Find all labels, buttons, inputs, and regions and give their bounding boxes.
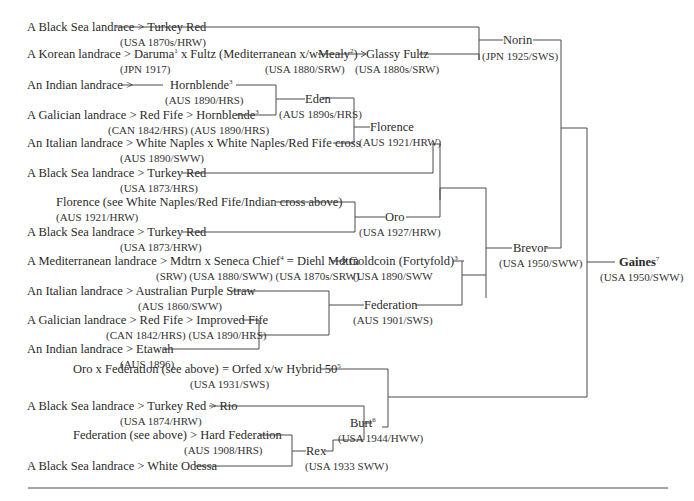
row-indian-landrace: An Indian landrace > [27, 78, 133, 92]
row-improved-fife-info: (CAN 1842/HRS) (USA 1890/HRS) [106, 329, 266, 342]
row-florence-ref: Florence (see White Naples/Red Fife/Indi… [56, 195, 342, 209]
row-white-naples: An Italian landrace > White Naples x Whi… [27, 136, 361, 150]
row-red-fife-hornblende: A Galician landrace > Red Fife > Hornble… [27, 108, 259, 122]
row-hard-federation-info: (AUS 1908/HRS) [184, 444, 263, 457]
row-hard-federation: Federation (see above) > Hard Federation [73, 428, 282, 442]
node-rex: Rex [306, 444, 326, 458]
row-daruma-info: (JPN 1917) [120, 63, 170, 76]
row-mediterranean: A Mediterranean landrace > Mdtrn x Senec… [27, 254, 359, 268]
row-florence-ref-info: (AUS 1921/HRW) [56, 211, 138, 224]
node-gaines-info: (USA 1950/SWW) [600, 271, 683, 284]
node-goldcoin: Goldcoin (Fortyfold)3 [349, 254, 458, 268]
node-oro: Oro [385, 210, 404, 224]
row-white-naples-info: (AUS 1890/SWW) [120, 152, 204, 165]
node-goldcoin-info: (USA 1890/SWW [353, 270, 433, 283]
node-oro-info: (USA 1927/HRW) [359, 226, 441, 239]
node-norin-info: (JPN 1925/SWS) [482, 50, 558, 63]
node-burt: Burt6 [350, 416, 376, 430]
node-norin: Norin [503, 33, 532, 47]
row-turkey-red-3: A Black Sea landrace > Turkey Red [27, 225, 206, 239]
node-eden: Eden [305, 92, 331, 106]
row-orfed: Oro x Federation (see above) = Orfed x/w… [73, 362, 341, 376]
row-daruma-fultz: A Korean landrace > Daruma1 x Fultz (Med… [27, 47, 358, 61]
node-brevor-info: (USA 1950/SWW) [499, 257, 582, 270]
row-hornblende-1: Hornblende3 [170, 78, 233, 92]
connector-lines [0, 0, 694, 501]
pedigree-diagram: A Black Sea landrace > Turkey Red (USA 1… [0, 0, 694, 501]
row-turkey-red-1: A Black Sea landrace > Turkey Red [27, 20, 206, 34]
row-orfed-info: (USA 1931/SWS) [190, 378, 269, 391]
row-rio: A Black Sea landrace > Turkey Red > Rio [27, 399, 238, 413]
node-gaines-root: Gaines7 [619, 255, 659, 269]
node-brevor: Brevor [513, 241, 548, 255]
row-turkey-red-2: A Black Sea landrace > Turkey Red [27, 166, 206, 180]
node-glassy-fultz: Glassy Fultz [366, 47, 429, 61]
row-improved-fife: A Galician landrace > Red Fife > Improve… [27, 313, 268, 327]
node-federation-info: (AUS 1901/SWS) [353, 314, 433, 327]
node-eden-info: (AUS 1890s/HRS) [279, 108, 362, 121]
row-mediterranean-info: (SRW) (USA 1880/SWW) (USA 1870s/SRW) [156, 270, 360, 283]
row-turkey-red-3-info: (USA 1873/HRW) [120, 241, 202, 254]
node-glassy-fultz-info: (USA 1880s/SRW) [355, 63, 439, 76]
row-australian-purple-straw: An Italian landrace > Australian Purple … [27, 284, 256, 298]
row-australian-purple-straw-info: (AUS 1860/SWW) [138, 300, 222, 313]
node-federation: Federation [364, 298, 417, 312]
row-etawah: An Indian landrace > Etawah [27, 342, 174, 356]
row-turkey-red-2-info: (USA 1873/HRS) [120, 182, 198, 195]
node-florence: Florence [370, 120, 414, 134]
node-florence-info: (AUS 1921/HRW) [359, 136, 441, 149]
row-fultz-info: (USA 1880/SRW) [265, 63, 345, 76]
row-white-odessa: A Black Sea landrace > White Odessa [27, 459, 217, 473]
row-hornblende-1-info: (AUS 1890/HRS) [165, 94, 244, 107]
node-burt-info: (USA 1944/HWW) [338, 432, 423, 445]
row-rio-info: (USA 1874/HRW) [120, 415, 202, 428]
node-rex-info: (USA 1933 SWW) [305, 460, 388, 473]
